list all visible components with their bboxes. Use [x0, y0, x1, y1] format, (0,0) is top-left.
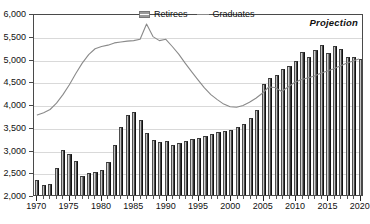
x-axis-tick-label: 2020	[350, 201, 370, 211]
x-axis-tick-minor	[172, 196, 173, 199]
x-axis-tick-label: 1990	[156, 201, 176, 211]
x-axis-tick-minor	[140, 196, 141, 199]
x-axis-tick-minor	[314, 196, 315, 199]
x-axis-tick-minor	[224, 196, 225, 199]
x-axis-tick-minor	[159, 196, 160, 199]
x-axis-tick-minor	[82, 196, 83, 199]
x-axis-tick-minor	[43, 196, 44, 199]
x-axis-tick-minor	[321, 196, 322, 199]
x-axis-tick-minor	[243, 196, 244, 199]
x-axis-tick-label: 2010	[285, 201, 305, 211]
x-axis-labels: 1970197519801985199019952000200520102015…	[0, 201, 370, 217]
x-axis-tick-minor	[49, 196, 50, 199]
x-axis-tick-minor	[94, 196, 95, 199]
x-axis-tick-label: 1980	[91, 201, 111, 211]
x-axis-tick-minor	[289, 196, 290, 199]
x-axis-tick-label: 2000	[220, 201, 240, 211]
x-axis-tick-minor	[179, 196, 180, 199]
x-axis-tick-minor	[75, 196, 76, 199]
x-axis-tick-minor	[56, 196, 57, 199]
x-axis-tick-minor	[153, 196, 154, 199]
x-axis-tick-minor	[62, 196, 63, 199]
plot-area	[33, 14, 363, 196]
x-axis-tick-label: 1970	[26, 201, 46, 211]
x-axis-tick-minor	[308, 196, 309, 199]
legend-item-retirees: Retirees	[139, 9, 188, 19]
x-axis-tick-minor	[347, 196, 348, 199]
x-axis-tick-minor	[88, 196, 89, 199]
y-axis-tick-label: 4,500	[3, 78, 26, 87]
x-axis-tick-label: 1985	[123, 201, 143, 211]
x-axis-tick-minor	[340, 196, 341, 199]
bar-swatch-icon	[139, 11, 150, 18]
y-axis: 6,0005,5005,0004,5004,0003,5003,0002,500…	[0, 0, 33, 224]
x-axis-tick-minor	[185, 196, 186, 199]
x-axis-tick-label: 1995	[188, 201, 208, 211]
x-axis-tick-label: 2005	[253, 201, 273, 211]
x-axis-tick-minor	[127, 196, 128, 199]
x-axis-tick-minor	[256, 196, 257, 199]
line-swatch-icon	[197, 14, 209, 15]
x-axis-tick-minor	[269, 196, 270, 199]
y-axis-tick-label: 5,000	[3, 55, 26, 64]
x-axis-tick-minor	[107, 196, 108, 199]
x-axis-tick-minor	[204, 196, 205, 199]
x-axis-tick-minor	[237, 196, 238, 199]
y-axis-tick-label: 3,500	[3, 123, 26, 132]
legend-label-graduates: Graduates	[213, 9, 255, 19]
x-axis-tick-label: 2015	[317, 201, 337, 211]
x-axis-tick-minor	[302, 196, 303, 199]
projection-annotation: Projection	[310, 17, 358, 28]
x-axis-tick-minor	[282, 196, 283, 199]
retirees-graduates-chart: 6,0005,5005,0004,5004,0003,5003,0002,500…	[0, 0, 370, 224]
x-axis-tick-minor	[334, 196, 335, 199]
x-axis-tick-minor	[114, 196, 115, 199]
legend-item-graduates: Graduates	[197, 9, 255, 19]
line-series-graduates	[34, 15, 362, 195]
y-axis-tick-label: 6,000	[3, 10, 26, 19]
x-axis-tick-minor	[217, 196, 218, 199]
y-axis-tick-label: 2,000	[3, 192, 26, 201]
x-axis-tick-minor	[353, 196, 354, 199]
chart-legend: Retirees Graduates	[139, 9, 255, 19]
y-axis-tick-label: 2,500	[3, 169, 26, 178]
x-axis-tick-minor	[250, 196, 251, 199]
legend-label-retirees: Retirees	[154, 9, 188, 19]
x-axis-tick-minor	[192, 196, 193, 199]
x-axis-tick-minor	[146, 196, 147, 199]
y-axis-tick-label: 4,000	[3, 101, 26, 110]
x-axis-tick-minor	[120, 196, 121, 199]
x-axis-tick-minor	[276, 196, 277, 199]
x-axis-tick-minor	[211, 196, 212, 199]
x-axis-tick-label: 1975	[59, 201, 79, 211]
y-axis-tick-label: 3,000	[3, 146, 26, 155]
y-axis-tick-label: 5,500	[3, 32, 26, 41]
graduates-line-path	[37, 24, 359, 115]
